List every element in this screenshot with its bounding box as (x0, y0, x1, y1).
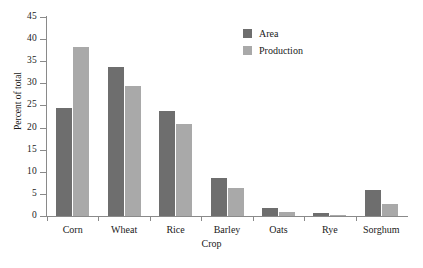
x-axis-title: Crop (0, 238, 423, 249)
y-axis-tick (40, 17, 46, 18)
bar-rice-production (176, 124, 192, 216)
y-axis-tick (40, 83, 46, 84)
x-axis-line (46, 216, 408, 217)
legend-label: Area (259, 29, 278, 39)
y-axis-tick (40, 39, 46, 40)
y-axis-line (46, 16, 47, 217)
bar-corn-production (73, 47, 89, 216)
x-axis-tick (356, 217, 357, 221)
y-axis-tick (40, 194, 46, 195)
x-axis-tick (150, 217, 151, 221)
y-axis-tick (40, 105, 46, 106)
bar-oats-production (279, 212, 295, 216)
bar-rye-production (330, 215, 346, 216)
x-axis-tick (201, 217, 202, 221)
bar-corn-area (56, 108, 72, 216)
y-axis-tick (40, 150, 46, 151)
x-axis-tick (304, 217, 305, 221)
legend-item-area: Area (243, 25, 303, 42)
bar-barley-area (211, 178, 227, 216)
bar-barley-production (228, 188, 244, 216)
y-axis-tick-label: 5 (0, 189, 37, 199)
y-axis-title: Percent of total (13, 46, 23, 156)
x-axis-tick (98, 217, 99, 221)
bar-rice-area (159, 111, 175, 216)
bar-wheat-area (108, 67, 124, 216)
y-axis-tick (40, 128, 46, 129)
y-axis-tick (40, 61, 46, 62)
y-axis-tick-label: 40 (0, 34, 37, 44)
bar-oats-area (262, 208, 278, 216)
legend-swatch-icon (243, 29, 252, 38)
x-axis-tick (47, 217, 48, 221)
bar-sorghum-production (382, 204, 398, 216)
legend-swatch-icon (243, 46, 252, 55)
x-axis-tick-label: Sorghum (346, 224, 416, 236)
bar-sorghum-area (365, 190, 381, 216)
legend-label: Production (259, 46, 303, 56)
x-axis-tick (253, 217, 254, 221)
y-axis-tick-label: 10 (0, 167, 37, 177)
y-axis-tick-label: 0 (0, 211, 37, 221)
y-axis-tick (40, 172, 46, 173)
bar-wheat-production (125, 86, 141, 216)
y-axis-tick (40, 216, 46, 217)
legend: AreaProduction (243, 25, 303, 59)
bar-rye-area (313, 213, 329, 216)
plot-area (47, 17, 407, 216)
y-axis-tick-label: 45 (0, 12, 37, 22)
legend-item-production: Production (243, 42, 303, 59)
bar-chart-figure: 051015202530354045 CornWheatRiceBarleyOa… (0, 0, 423, 268)
